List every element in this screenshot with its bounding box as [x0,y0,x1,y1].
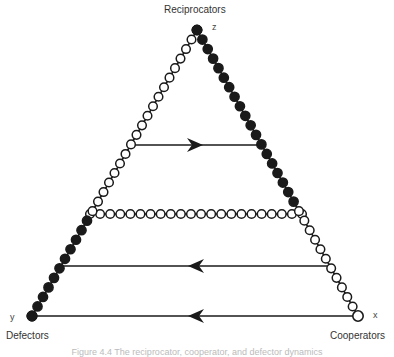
right-edge-marker-filled [268,159,277,168]
open-circle-marker [106,210,115,219]
left-edge-marker-filled [82,216,91,225]
open-circle-marker [156,210,165,219]
left-edge-marker-open [116,159,125,168]
open-circle-marker [197,210,206,219]
left-edge-marker-filled [55,264,64,273]
left-edge-marker-filled [33,302,42,311]
left-edge-marker-open [176,54,185,63]
figure-caption: Figure 4.4 The reciprocator, cooperator,… [0,347,394,357]
right-edge-marker-filled [246,121,255,130]
right-edge-marker-filled [214,64,223,73]
open-circle-marker [187,210,196,219]
right-edge-marker-open [305,226,314,235]
left-edge-marker-open [105,178,114,187]
right-edge-marker-open [332,274,341,283]
right-edge-marker-open [327,264,336,273]
open-circle-marker [257,210,266,219]
open-circle-marker [267,210,276,219]
open-circle-marker [136,210,145,219]
vertex-z [192,25,202,35]
right-edge-marker-filled [289,197,298,206]
left-edge-marker-open [132,131,141,140]
left-edge-marker-open [110,169,119,178]
right-edge-marker-filled [278,178,287,187]
right-edge-marker-open [295,207,304,216]
right-edge-marker-open [338,283,347,292]
open-circle-marker [237,210,246,219]
left-edge-marker-open [121,150,130,159]
left-edge-marker-open [127,140,136,149]
left-edge-marker-open [143,112,152,121]
left-edge-marker-open [154,92,163,101]
open-circle-marker [116,210,125,219]
right-edge-marker-open [311,235,320,244]
right-edge-marker-filled [219,73,228,82]
open-circle-marker [227,210,236,219]
right-edge-marker-filled [273,168,282,177]
right-edge-marker-open [348,302,357,311]
right-edge-marker-filled [251,130,260,139]
left-edge-marker-open [187,35,196,44]
right-edge-marker-filled [235,102,244,111]
left-edge-marker-open [138,121,147,130]
right-edge-marker-open [316,245,325,254]
left-edge-marker-open [160,83,169,92]
open-circle-marker [217,210,226,219]
right-edge-marker-open [343,293,352,302]
right-edge-marker-filled [257,140,266,149]
left-edge-marker-filled [71,235,80,244]
left-edge-marker-filled [38,292,47,301]
right-edge-marker-filled [262,149,271,158]
open-circle-marker [207,210,216,219]
left-edge-marker-open [94,197,103,206]
right-edge-marker-filled [230,92,239,101]
open-circle-marker [278,210,287,219]
open-circle-marker [177,210,186,219]
left-edge-marker-filled [49,273,58,282]
open-circle-marker [247,210,256,219]
left-edge-marker-open [165,73,174,82]
right-edge-marker-filled [209,54,218,63]
vertex-y [27,311,37,321]
left-edge-marker-filled [44,283,53,292]
open-circle-marker [126,210,135,219]
left-edge-marker-filled [60,254,69,263]
left-edge-marker-open [99,188,108,197]
open-circle-marker [166,210,175,219]
left-edge-marker-filled [77,226,86,235]
right-edge-marker-filled [198,35,207,44]
vertex-x [353,311,363,321]
left-edge-marker-filled [66,245,75,254]
right-edge-marker-open [300,216,309,225]
left-edge-marker-open [149,102,158,111]
open-circle-marker [146,210,155,219]
right-edge-marker-open [322,254,331,263]
left-edge-marker-open [171,64,180,73]
right-edge-marker-filled [284,187,293,196]
left-edge-marker-open [88,207,97,216]
right-edge-marker-filled [225,83,234,92]
right-edge-marker-filled [203,44,212,53]
left-edge-marker-open [182,45,191,54]
right-edge-marker-filled [241,111,250,120]
